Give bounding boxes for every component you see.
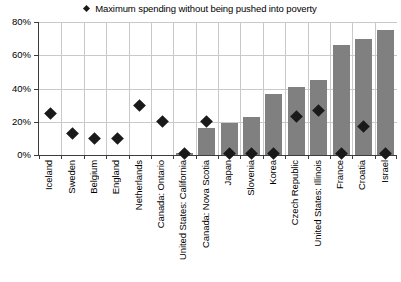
chart-marker-diamond <box>156 115 169 128</box>
x-axis-tick-label: United States: California <box>178 160 188 260</box>
x-axis-tick-label: Iceland <box>44 160 54 190</box>
x-axis-tick-label: Israel <box>380 160 390 183</box>
x-axis-tick <box>173 155 174 159</box>
chart-legend: Maximum spending without being pushed in… <box>0 1 401 16</box>
x-axis-tick-label: Croatia <box>357 160 367 190</box>
x-axis-tick <box>375 155 376 159</box>
x-axis-tick <box>352 155 353 159</box>
x-axis-tick <box>308 155 309 159</box>
chart-marker-diamond <box>66 127 79 140</box>
chart-bar <box>333 45 350 155</box>
x-axis-tick <box>106 155 107 159</box>
x-axis-tick <box>196 155 197 159</box>
x-axis-tick-label: Canada: Ontario <box>156 160 166 228</box>
chart-category-column <box>61 22 83 155</box>
x-axis-tick-label: Korea <box>268 160 278 185</box>
x-axis-tick <box>151 155 152 159</box>
legend-diamond-icon <box>83 5 90 12</box>
x-axis-tick <box>39 155 40 159</box>
plot-area <box>38 22 397 156</box>
chart-bar <box>355 39 372 155</box>
x-axis-tick <box>396 155 397 159</box>
chart-category-column <box>39 22 61 155</box>
legend-label: Maximum spending without being pushed in… <box>95 3 317 14</box>
y-axis-tick-label: 20% <box>12 117 31 127</box>
x-axis-tick <box>218 155 219 159</box>
chart-category-column <box>129 22 151 155</box>
x-axis-tick <box>240 155 241 159</box>
chart-category-column <box>84 22 106 155</box>
y-axis-tick-label: 0% <box>17 150 31 160</box>
chart-category-column <box>375 22 397 155</box>
x-axis-tick-label: England <box>111 160 121 194</box>
chart-marker-diamond <box>44 107 57 120</box>
x-axis-tick <box>330 155 331 159</box>
x-axis-tick-label: Slovenia <box>246 160 256 196</box>
chart-bar <box>310 80 327 155</box>
chart-marker-diamond <box>133 99 146 112</box>
x-axis-tick <box>129 155 130 159</box>
chart-category-column <box>173 22 195 155</box>
chart-marker-diamond <box>111 132 124 145</box>
x-axis-tick-label: United States: Illinois <box>313 160 323 246</box>
chart-bar <box>198 128 215 155</box>
chart-category-column <box>151 22 173 155</box>
chart-container: Maximum spending without being pushed in… <box>0 0 401 282</box>
chart-category-column <box>352 22 374 155</box>
chart-marker-diamond <box>89 132 102 145</box>
chart-category-column <box>218 22 240 155</box>
x-axis-tick-label: Czech Republic <box>290 160 300 225</box>
x-axis-tick-label: Japan <box>223 160 233 185</box>
x-axis-tick-label: Sweden <box>67 160 77 194</box>
chart-bar <box>377 30 394 155</box>
x-axis-tick-label: Netherlands <box>134 160 144 210</box>
chart-category-column <box>240 22 262 155</box>
chart-category-column <box>263 22 285 155</box>
chart-category-column <box>196 22 218 155</box>
chart-bar <box>265 94 282 156</box>
chart-marker-diamond <box>178 147 191 160</box>
x-axis-tick-label: Belgium <box>89 160 99 194</box>
chart-category-column <box>308 22 330 155</box>
x-axis-tick <box>263 155 264 159</box>
chart-category-column <box>106 22 128 155</box>
x-axis-tick-label: Canada: Nova Scotia <box>201 160 211 248</box>
chart-category-column <box>330 22 352 155</box>
y-axis-tick-label: 60% <box>12 50 31 60</box>
x-axis-labels: IcelandSwedenBelgiumEnglandNetherlandsCa… <box>38 160 396 282</box>
y-axis-tick-label: 80% <box>12 17 31 27</box>
x-axis-tick <box>285 155 286 159</box>
y-axis-tick-label: 40% <box>12 84 31 94</box>
y-axis: 0%20%40%60%80% <box>0 0 35 282</box>
chart-category-column <box>285 22 307 155</box>
x-axis-tick <box>84 155 85 159</box>
x-axis-tick <box>61 155 62 159</box>
chart-marker-diamond <box>200 115 213 128</box>
x-axis-tick-label: France <box>335 160 345 189</box>
